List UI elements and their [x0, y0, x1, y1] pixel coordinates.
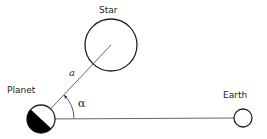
angle-label: α [78, 97, 86, 110]
planet-label: Planet [7, 85, 36, 95]
planet-earth-line [41, 118, 234, 119]
earth-label: Earth [223, 90, 247, 100]
earth-circle [234, 109, 252, 127]
star-label: Star [99, 5, 118, 15]
phase-angle-diagram: Star Planet Earth a α [0, 0, 267, 139]
distance-label: a [69, 67, 75, 78]
planet-icon [27, 105, 55, 133]
planet-star-line [41, 45, 111, 119]
